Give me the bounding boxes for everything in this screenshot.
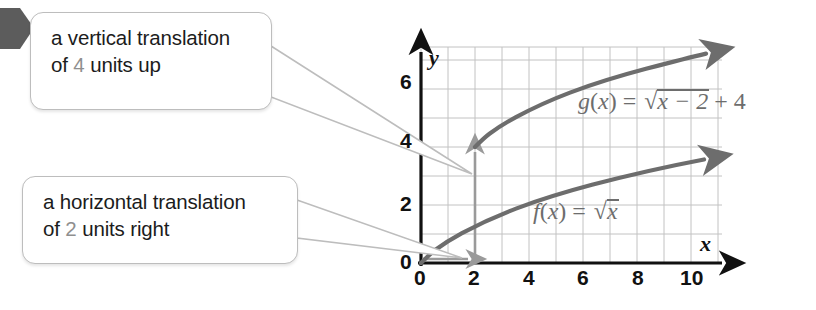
equation-g-tail: + 4: [708, 88, 746, 114]
callout-vertical-translation[interactable]: a vertical translation of 4 units up: [30, 12, 272, 110]
equation-g-close: ) =: [609, 88, 643, 114]
equation-f-close: ) =: [558, 198, 592, 224]
callout-horizontal-suffix: units right: [77, 217, 170, 240]
callout-vertical-line1: a vertical translation: [51, 24, 255, 51]
equation-f-fn: f: [533, 198, 540, 224]
equation-f-radical: √x: [592, 198, 618, 225]
equation-g-radical: √x − 2: [642, 88, 708, 115]
y-axis-label: y: [429, 45, 439, 71]
equation-label-g: g(x) = √x − 2 + 4: [578, 88, 746, 115]
x-tick-10: 10: [680, 266, 703, 290]
callout-horizontal-translation[interactable]: a horizontal translation of 2 units righ…: [22, 176, 298, 264]
callout-horizontal-number: 2: [65, 217, 76, 240]
radical-bar-g: [657, 89, 709, 91]
y-tick-6: 6: [400, 70, 412, 94]
x-tick-4: 4: [523, 266, 535, 290]
equation-g-radicand: x − 2: [657, 88, 708, 114]
x-tick-0: 0: [414, 266, 426, 290]
x-tick-8: 8: [632, 266, 644, 290]
y-tick-4: 4: [400, 129, 412, 153]
y-tick-2: 2: [400, 192, 412, 216]
callout-vertical-suffix: units up: [85, 53, 161, 76]
callout-vertical-prefix: of: [51, 53, 73, 76]
y-tick-0: 0: [400, 250, 412, 274]
equation-g-var: x: [598, 88, 609, 114]
callout-horizontal-line2: of 2 units right: [43, 215, 281, 242]
equation-label-f: f(x) = √x: [533, 198, 618, 225]
equation-f-var: x: [548, 198, 559, 224]
callout-vertical-number: 4: [73, 53, 84, 76]
figure-canvas: 0 2 4 6 8 10 0 2 4 6 y x g(x) = √x − 2 +…: [0, 0, 816, 310]
x-tick-6: 6: [577, 266, 589, 290]
x-tick-2: 2: [468, 266, 480, 290]
equation-g-fn: g: [578, 88, 590, 114]
x-axis-label: x: [700, 231, 711, 257]
equation-f-radicand: x: [607, 198, 618, 224]
radical-bar-f: [607, 199, 619, 201]
equation-g-open: (: [590, 88, 598, 114]
callout-vertical-line2: of 4 units up: [51, 51, 255, 78]
equation-f-open: (: [540, 198, 548, 224]
callout-horizontal-prefix: of: [43, 217, 65, 240]
callout-horizontal-line1: a horizontal translation: [43, 188, 281, 215]
